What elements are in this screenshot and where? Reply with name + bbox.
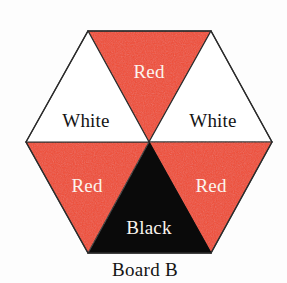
sector-top-label: Red	[133, 61, 165, 82]
hexagon-board-diagram: Red White Red Black Red	[0, 0, 287, 283]
sector-lower-left-label: Red	[71, 175, 103, 196]
hexagon-sectors: Red White Red Black Red	[26, 31, 272, 253]
sector-lower-right-label: Red	[195, 175, 227, 196]
sector-upper-right-label: White	[189, 110, 236, 131]
board-caption: Board B	[112, 259, 178, 280]
sector-bottom-label: Black	[126, 217, 172, 238]
sector-upper-left-label: White	[62, 110, 109, 131]
board-figure: Red White Red Black Red	[0, 0, 287, 283]
